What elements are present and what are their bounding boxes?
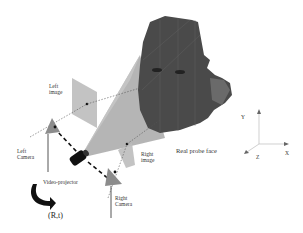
- transform-label: (R,t): [48, 212, 63, 220]
- video-projector-label: Video-projector: [43, 180, 78, 186]
- axis-y-text: Y: [241, 114, 245, 120]
- real-probe-face-text: Real probe face: [176, 147, 217, 154]
- left-camera-label-line2: Camera: [17, 155, 34, 161]
- axes-icon: [244, 109, 289, 154]
- stereo-vision-diagram: [0, 0, 303, 233]
- right-image-label: Right image: [141, 152, 154, 164]
- axis-y-label: Y: [241, 115, 245, 121]
- left-image-label-line2: image: [49, 90, 62, 96]
- face-model: [138, 16, 232, 133]
- axis-z-text: Z: [256, 154, 259, 160]
- right-camera-label: Right Camera: [115, 196, 132, 208]
- transform-text: (R,t): [48, 211, 63, 220]
- axis-x-label: X: [285, 151, 289, 157]
- video-projector-text: Video-projector: [43, 179, 78, 185]
- left-camera-label: Left Camera: [17, 149, 34, 161]
- right-camera-label-line2: Camera: [115, 202, 132, 208]
- left-image-label: Left image: [49, 84, 62, 96]
- rotation-arrow-icon: [31, 184, 56, 210]
- video-projector-icon: [69, 149, 90, 167]
- right-image-label-line2: image: [141, 158, 154, 164]
- left-image-plane: [72, 78, 97, 128]
- right-camera: [105, 168, 122, 218]
- left-camera: [45, 118, 60, 172]
- real-probe-face-label: Real probe face: [176, 148, 217, 155]
- axis-x-text: X: [285, 150, 289, 156]
- axis-z-label: Z: [256, 155, 259, 161]
